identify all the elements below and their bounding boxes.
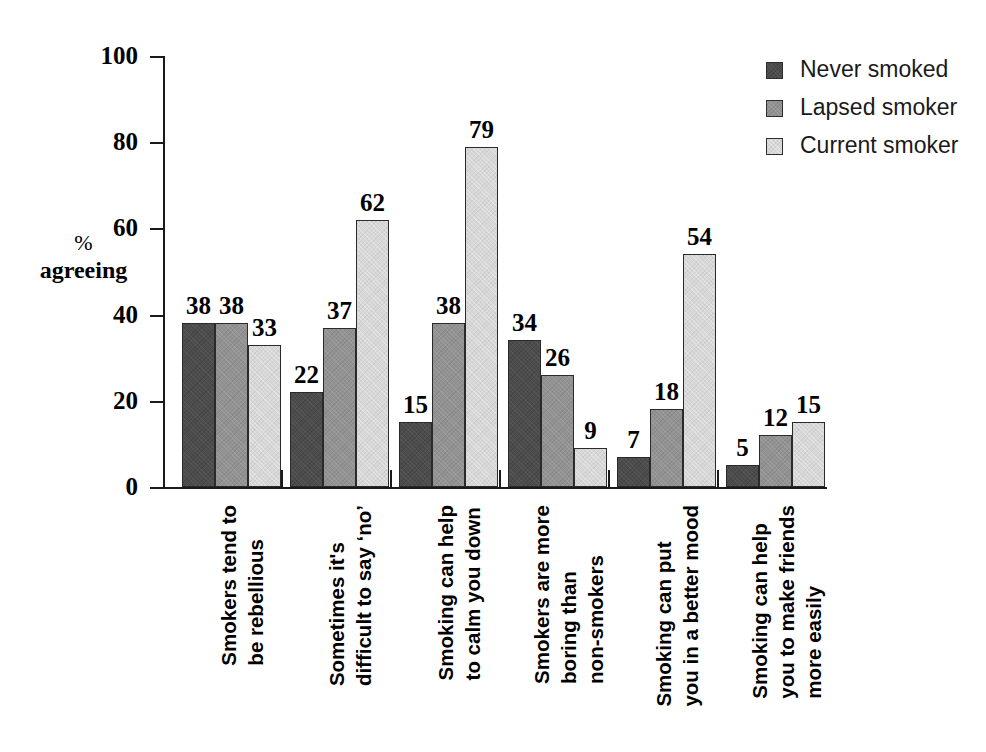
x-axis-label-line: non-smokers (582, 505, 609, 684)
bar-value-label: 79 (459, 117, 504, 142)
x-axis-label: Smoking can helpto calm you down (432, 505, 486, 680)
bar (759, 435, 792, 487)
legend-item[interactable]: Lapsed smoker (766, 95, 958, 133)
bar (574, 448, 607, 487)
bar (182, 323, 215, 487)
bar (215, 323, 248, 487)
x-axis-label: Smoking can putyou in a better mood (650, 505, 704, 707)
x-axis-label-line: difficult to say ‘no’ (350, 505, 377, 686)
legend-label: Lapsed smoker (800, 95, 957, 120)
x-axis-line (163, 487, 827, 489)
bar-chart: % agreeing 020406080100 3838332237621538… (0, 0, 986, 752)
bar (356, 220, 389, 487)
bar-value-label: 62 (350, 190, 395, 215)
x-axis-label: Smokers are moreboring thannon-smokers (528, 505, 609, 684)
x-axis-label: Smokers tend tobe rebellious (215, 505, 269, 666)
x-axis-label-line: Sometimes it's (323, 505, 350, 686)
bar (650, 409, 683, 487)
bar (617, 457, 650, 487)
x-axis-label: Sometimes it'sdifficult to say ‘no’ (323, 505, 377, 686)
bar (726, 465, 759, 487)
x-axis-label-line: be rebellious (242, 505, 269, 666)
bar (465, 147, 498, 487)
legend: Never smokedLapsed smokerCurrent smoker (766, 57, 958, 171)
x-axis-label-line: you to make friends (773, 505, 800, 699)
x-axis-label-line: boring than (555, 505, 582, 684)
bar (683, 254, 716, 487)
legend-item[interactable]: Current smoker (766, 133, 958, 171)
bar-value-label: 9 (568, 418, 613, 443)
y-tick-mark (150, 487, 163, 489)
bar (432, 323, 465, 487)
x-axis-label-line: to calm you down (459, 505, 486, 680)
x-axis-label-line: you in a better mood (677, 505, 704, 707)
x-axis-label: Smoking can helpyou to make friendsmore … (746, 505, 827, 699)
legend-swatch (766, 138, 783, 155)
bar (399, 422, 432, 487)
bar-value-label: 34 (502, 310, 547, 335)
x-axis-label-line: Smokers are more (528, 505, 555, 684)
x-axis-label-line: Smoking can help (432, 505, 459, 680)
bar-value-label: 33 (242, 315, 287, 340)
y-tick: 0 (0, 487, 150, 489)
bar (792, 422, 825, 487)
x-axis-label-line: Smoking can put (650, 505, 677, 707)
x-axis-label-line: Smokers tend to (215, 505, 242, 666)
bar-value-label: 15 (786, 392, 831, 417)
bar-value-label: 26 (535, 345, 580, 370)
x-axis-label-line: Smoking can help (746, 505, 773, 699)
x-axis-label-line: more easily (800, 505, 827, 699)
legend-label: Current smoker (800, 133, 958, 158)
bar-value-label: 54 (677, 224, 722, 249)
bar (290, 392, 323, 487)
plot-area: % agreeing 020406080100 3838332237621538… (0, 0, 986, 752)
legend-swatch (766, 100, 783, 117)
legend-item[interactable]: Never smoked (766, 57, 958, 95)
bar (248, 345, 281, 487)
bar (323, 328, 356, 487)
legend-swatch (766, 62, 783, 79)
legend-label: Never smoked (800, 57, 948, 82)
